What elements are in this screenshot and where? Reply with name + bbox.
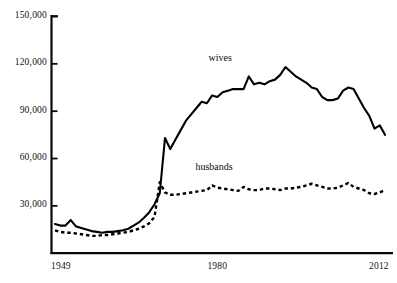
chart-plot-area [0,0,397,283]
y-axis-tick-label: 120,000 [15,57,47,67]
y-axis-tick-label: 60,000 [20,152,47,162]
series-annotation-husbands: husbands [195,161,232,172]
x-axis-tick-label: 2012 [369,261,389,271]
series-line-husbands [55,182,385,236]
chart-container: 150,000120,00090,00060,00030,000 1949198… [0,0,397,283]
x-axis-tick-label: 1980 [207,261,227,271]
y-axis-tick-label: 150,000 [15,10,47,20]
series-annotation-wives: wives [209,52,232,63]
series-line-wives [55,67,385,233]
y-axis-tick-label: 90,000 [20,105,47,115]
y-axis-tick-label: 30,000 [20,199,47,209]
x-axis-tick-label: 1949 [51,261,71,271]
